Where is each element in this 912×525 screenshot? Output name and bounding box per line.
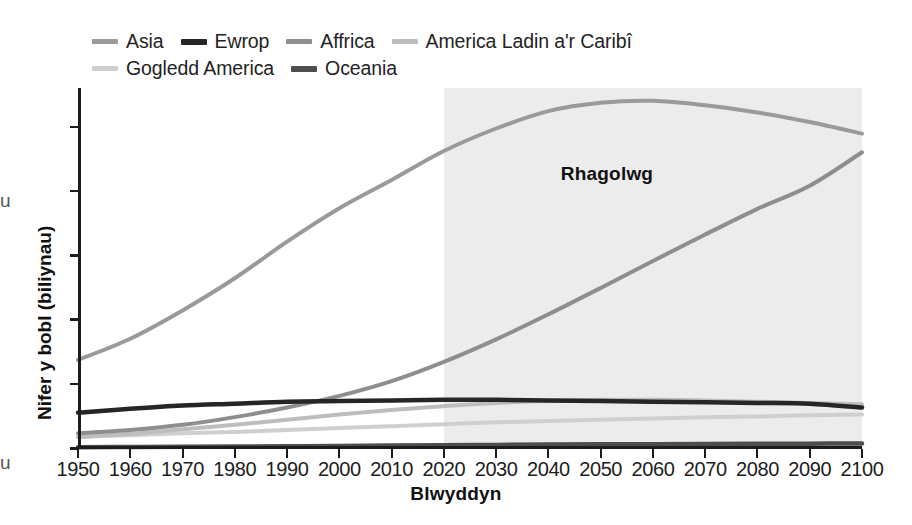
- x-tick-label: 2090: [780, 458, 840, 481]
- x-tick-label: 2080: [727, 458, 787, 481]
- x-axis-line: [78, 446, 862, 449]
- series-line-asia: [78, 101, 862, 360]
- x-tick-mark: [495, 449, 497, 458]
- plot-area: Rhagolwg: [78, 88, 862, 448]
- legend-item-label: Oceania: [325, 57, 397, 80]
- legend-item-asia[interactable]: Asia: [92, 30, 164, 53]
- legend-row: AsiaEwropAffricaAmerica Ladin a'r Caribî: [92, 28, 832, 55]
- x-tick-mark: [286, 449, 288, 458]
- x-tick-mark: [234, 449, 236, 458]
- x-tick-label: 1950: [48, 458, 108, 481]
- x-tick-label: 2040: [518, 458, 578, 481]
- x-tick-label: 1970: [153, 458, 213, 481]
- legend-swatch-icon: [286, 39, 312, 44]
- legend-swatch-icon: [181, 39, 207, 45]
- legend-item-label: America Ladin a'r Caribî: [426, 30, 632, 53]
- y-tick-mark: [70, 383, 79, 386]
- x-tick-mark: [652, 449, 654, 458]
- x-tick-mark: [704, 449, 706, 458]
- chart-legend: AsiaEwropAffricaAmerica Ladin a'r Caribî…: [92, 28, 832, 82]
- legend-swatch-icon: [92, 66, 118, 71]
- x-tick-mark: [809, 449, 811, 458]
- legend-item-label: Gogledd America: [126, 57, 274, 80]
- legend-swatch-icon: [291, 66, 317, 72]
- x-tick-label: 2050: [571, 458, 631, 481]
- page-edge-glyph: u: [0, 190, 10, 212]
- x-tick-label: 1990: [257, 458, 317, 481]
- chart-container: AsiaEwropAffricaAmerica Ladin a'r Caribî…: [0, 0, 912, 525]
- legend-row: Gogledd AmericaOceania: [92, 55, 832, 82]
- x-tick-mark: [600, 449, 602, 458]
- legend-item-ewrop[interactable]: Ewrop: [181, 30, 270, 53]
- x-tick-label: 2100: [832, 458, 892, 481]
- legend-item-label: Ewrop: [215, 30, 270, 53]
- series-line-affrica: [78, 152, 862, 433]
- legend-swatch-icon: [392, 39, 418, 44]
- legend-item-gogledd-america[interactable]: Gogledd America: [92, 57, 274, 80]
- x-tick-label: 2020: [414, 458, 474, 481]
- x-tick-mark: [547, 449, 549, 458]
- y-tick-mark: [70, 254, 79, 257]
- y-tick-mark: [70, 190, 79, 193]
- legend-item-america-ladin-a-r-carib[interactable]: America Ladin a'r Caribî: [392, 30, 632, 53]
- x-tick-label: 2070: [675, 458, 735, 481]
- y-tick-mark: [70, 126, 79, 129]
- page-edge-glyph: u: [0, 452, 10, 474]
- series-line-gogledd-america: [78, 415, 862, 438]
- x-tick-mark: [77, 449, 79, 458]
- x-tick-mark: [861, 449, 863, 458]
- x-axis-title: Blwyddyn: [0, 483, 912, 505]
- x-tick-label: 2030: [466, 458, 526, 481]
- legend-swatch-icon: [92, 39, 118, 44]
- x-tick-label: 2010: [362, 458, 422, 481]
- x-tick-label: 2000: [309, 458, 369, 481]
- legend-item-label: Affrica: [320, 30, 374, 53]
- y-tick-mark: [70, 318, 79, 321]
- x-tick-mark: [756, 449, 758, 458]
- x-tick-mark: [129, 449, 131, 458]
- legend-item-affrica[interactable]: Affrica: [286, 30, 374, 53]
- x-tick-mark: [443, 449, 445, 458]
- y-axis-line: [78, 88, 81, 449]
- x-tick-mark: [182, 449, 184, 458]
- x-tick-mark: [338, 449, 340, 458]
- series-lines: [78, 88, 862, 448]
- y-axis-title: Nifer y bobl (biliynau): [34, 226, 56, 420]
- legend-item-oceania[interactable]: Oceania: [291, 57, 397, 80]
- x-tick-label: 1980: [205, 458, 265, 481]
- x-tick-label: 1960: [100, 458, 160, 481]
- x-tick-label: 2060: [623, 458, 683, 481]
- legend-item-label: Asia: [126, 30, 164, 53]
- x-tick-mark: [391, 449, 393, 458]
